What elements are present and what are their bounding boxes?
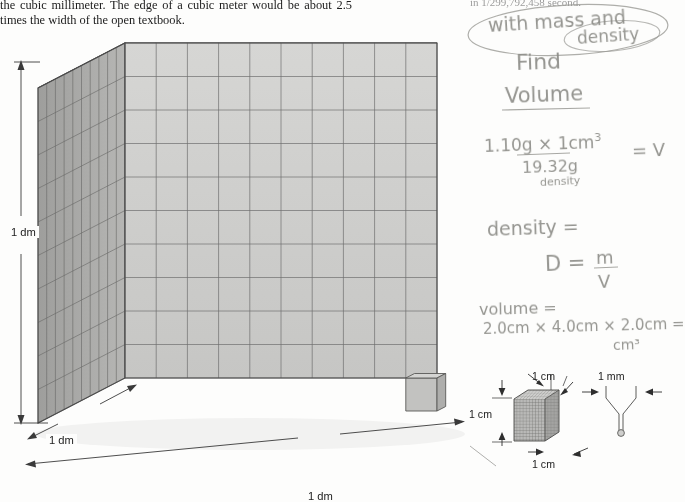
handwriting-volume-unit: cm³ [613,336,640,353]
mm-marker-label: 1 mm [598,370,624,382]
cm-cube-left-label: 1 cm [469,408,492,420]
cube-width-label: 1 dm [305,490,336,502]
handwriting-prompt-line3: Find [516,48,562,75]
cubic-millimeter-marker [606,386,636,436]
small-figures-drawing [470,368,670,493]
cubic-centimeter-cube [514,390,559,441]
handwriting-volume-word: volume = [479,298,557,319]
handwriting-equation1-result: = V [632,139,666,161]
handwriting-volume-calc: 2.0cm × 4.0cm × 2.0cm = [483,315,685,338]
printed-paragraph: the cubic millimeter. The edge of a cubi… [0,0,352,28]
handwriting-density-formula-v: V [598,271,611,292]
detached-unit-cube [406,374,446,412]
cube-left-face [38,43,125,423]
cm-cube-bottom-label: 1 cm [532,458,555,470]
cube-front-face [125,43,437,378]
handwriting-density-formula-m: m [596,246,614,268]
handwriting-density-formula-d: D = [545,251,586,276]
handwriting-density-word: density = [487,215,579,240]
cube-drawing [0,26,470,493]
handwriting-equation1-denominator-label: density [540,174,581,189]
handwriting-prompt-line4: Volume [505,81,584,108]
small-figures-group: 1 cm 1 cm 1 cm 1 mm [470,368,670,493]
cm-cube-top-label: 1 cm [532,370,555,382]
cube-height-label: 1 dm [8,226,39,238]
mm-marker-arrows [582,389,662,396]
cubic-decimeter-figure: 1 dm 1 dm 1 dm [0,26,470,493]
handwriting-equation1-numerator: 1.10g × 1cm3 [484,131,602,156]
cube-depth-label: 1 dm [46,434,77,446]
handwriting-prompt-line2: density [576,24,640,48]
